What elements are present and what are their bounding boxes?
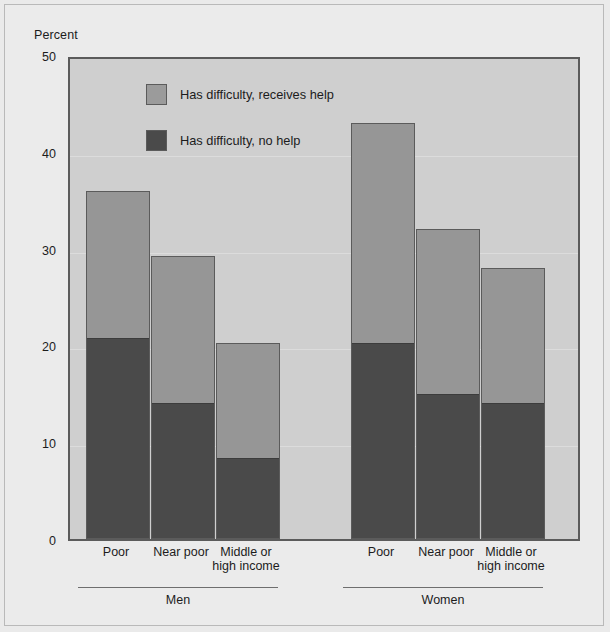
bar-segment-receives-help bbox=[152, 257, 214, 403]
bar-men-poor bbox=[86, 191, 150, 539]
x-axis-label-line1: Middle or bbox=[465, 546, 557, 560]
legend-swatch-icon-receives-help bbox=[146, 84, 167, 105]
group-label-men: Men bbox=[78, 593, 278, 607]
x-axis-label-line2: high income bbox=[465, 560, 557, 574]
bar-women-poor bbox=[351, 123, 415, 539]
y-axis-tick-labels: 50403020100 bbox=[0, 57, 64, 541]
bar-men-middle-or-high-income bbox=[216, 343, 280, 539]
bar-segment-receives-help bbox=[217, 344, 279, 457]
chart-page: Percent 50403020100 Has difficulty, rece… bbox=[0, 0, 610, 632]
bar-men-near-poor bbox=[151, 256, 215, 539]
bar-women-near-poor bbox=[416, 229, 480, 539]
bar-segment-no-help bbox=[482, 403, 544, 538]
group-bracket-men bbox=[78, 587, 278, 588]
bar-women-middle-or-high-income bbox=[481, 268, 545, 539]
legend-label-no-help: Has difficulty, no help bbox=[180, 133, 300, 148]
x-axis-label-line1: Middle or bbox=[200, 546, 292, 560]
y-axis-tick-20: 20 bbox=[42, 340, 56, 354]
x-axis-label-2: Middle orhigh income bbox=[200, 546, 292, 573]
legend-item-no-help: Has difficulty, no help bbox=[146, 130, 334, 151]
bar-segment-receives-help bbox=[482, 269, 544, 404]
bar-segment-no-help bbox=[352, 343, 414, 538]
legend-swatch-icon-no-help bbox=[146, 130, 167, 151]
legend: Has difficulty, receives help Has diffic… bbox=[146, 84, 334, 176]
y-axis-tick-10: 10 bbox=[42, 437, 56, 451]
x-axis-label-5: Middle orhigh income bbox=[465, 546, 557, 573]
bar-segment-no-help bbox=[417, 394, 479, 538]
bar-segment-receives-help bbox=[87, 192, 149, 338]
bar-segment-no-help bbox=[152, 403, 214, 538]
x-axis-label-line2: high income bbox=[200, 560, 292, 574]
legend-item-receives-help: Has difficulty, receives help bbox=[146, 84, 334, 105]
y-axis-title: Percent bbox=[34, 28, 78, 42]
bar-segment-no-help bbox=[217, 458, 279, 538]
legend-label-receives-help: Has difficulty, receives help bbox=[180, 87, 334, 102]
bar-segment-receives-help bbox=[352, 124, 414, 344]
x-axis-category-labels: PoorNear poorMiddle orhigh incomePoorNea… bbox=[68, 546, 580, 586]
y-axis-tick-30: 30 bbox=[42, 244, 56, 258]
y-axis-tick-50: 50 bbox=[42, 50, 56, 64]
bar-segment-receives-help bbox=[417, 230, 479, 393]
y-axis-tick-40: 40 bbox=[42, 147, 56, 161]
y-axis-tick-0: 0 bbox=[49, 534, 56, 548]
bar-segment-no-help bbox=[87, 338, 149, 538]
group-bracket-women bbox=[343, 587, 543, 588]
group-label-women: Women bbox=[343, 593, 543, 607]
